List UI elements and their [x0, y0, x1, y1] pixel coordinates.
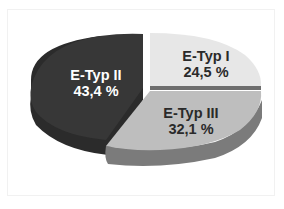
label-e-typ-ii: E-Typ II 43,4 %: [56, 67, 136, 99]
label-e-typ-ii-value: 43,4 %: [56, 83, 136, 99]
label-e-typ-ii-name: E-Typ II: [56, 67, 136, 83]
label-e-typ-i-value: 24,5 %: [168, 64, 244, 80]
label-e-typ-i: E-Typ I 24,5 %: [168, 48, 244, 80]
label-e-typ-iii: E-Typ III 32,1 %: [150, 105, 232, 137]
slice-e-typ-i-side: [150, 86, 261, 90]
pie-chart: [0, 0, 284, 209]
label-e-typ-iii-value: 32,1 %: [150, 121, 232, 137]
label-e-typ-i-name: E-Typ I: [168, 48, 244, 64]
label-e-typ-iii-name: E-Typ III: [150, 105, 232, 121]
